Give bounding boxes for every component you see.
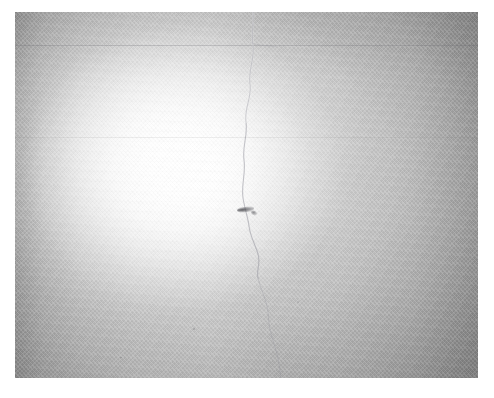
corner-vignette <box>15 12 478 378</box>
photograph-plate <box>15 12 478 378</box>
photo-frame: White textured wall with bright illumina… <box>0 0 494 398</box>
